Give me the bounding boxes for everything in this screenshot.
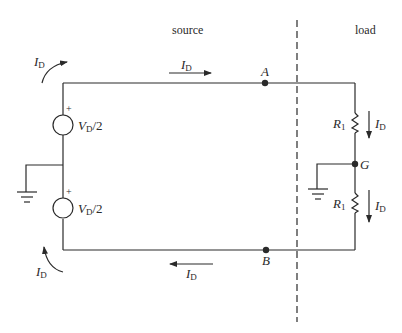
top-source-polarity: + [66, 103, 72, 114]
current-bottom-wire-label: ID [185, 266, 197, 282]
node-g-label: G [360, 157, 370, 172]
circuit-svg: source load + VD/2 + VD/2 [0, 0, 402, 333]
node-b-label: B [262, 253, 270, 268]
top-source-label: VD/2 [78, 118, 103, 134]
current-top-resistor-label: ID [374, 116, 386, 132]
top-resistor-icon [352, 113, 358, 133]
node-g-dot [352, 161, 358, 167]
bottom-source-polarity: + [66, 186, 72, 197]
source-circle-icon [53, 198, 73, 218]
bottom-resistor-label: R1 [332, 196, 345, 212]
current-bottom-left-label: ID [35, 264, 47, 280]
load-ground-wire [317, 164, 355, 189]
bottom-voltage-source: + VD/2 [53, 186, 103, 218]
current-top-left-arrow-icon [42, 62, 67, 83]
current-top-left-label: ID [33, 54, 45, 70]
current-bottom-left-arrow-icon [44, 247, 63, 272]
circuit-diagram: source load + VD/2 + VD/2 [0, 0, 402, 333]
source-label: source [172, 23, 203, 37]
bottom-source-label: VD/2 [78, 201, 103, 217]
top-resistor-label: R1 [332, 116, 345, 132]
current-top-wire-label: ID [180, 57, 192, 73]
top-voltage-source: + VD/2 [53, 103, 103, 135]
wires [26, 83, 355, 250]
source-ground-wire [26, 165, 63, 192]
bottom-resistor-icon [352, 193, 358, 213]
source-circle-icon [53, 115, 73, 135]
node-a-dot [262, 80, 268, 86]
load-label: load [355, 23, 376, 37]
current-bottom-resistor-label: ID [374, 198, 386, 214]
node-a-label: A [260, 64, 269, 79]
load-ground-icon [308, 189, 328, 199]
source-ground-icon [17, 192, 37, 202]
